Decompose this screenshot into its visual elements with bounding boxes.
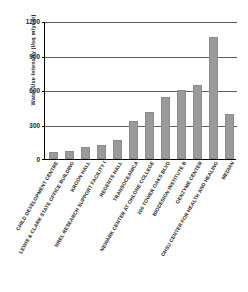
y-tick-label-900: 900 <box>18 54 40 60</box>
y-tick-label-0: 0 <box>18 157 40 163</box>
y-tick-label-600: 600 <box>18 88 40 94</box>
x-axis-label-text: MEDIAN <box>220 160 235 181</box>
x-axis-category-labels: CHILD DEVELOPMENT CENTRELEWIS & CLARK ST… <box>44 160 236 292</box>
y-tick-label-300: 300 <box>18 123 40 129</box>
water-use-intensity-bar-chart: Water Use Intensity (l/sq m/year) 1200 9… <box>0 0 248 292</box>
y-tick-label-1200: 1200 <box>18 19 40 25</box>
